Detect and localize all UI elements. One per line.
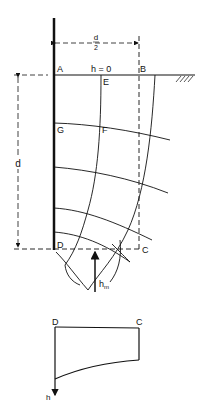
- point-d-label: D: [57, 240, 64, 250]
- point-e-label: E: [103, 77, 109, 87]
- depth-label: d: [15, 158, 21, 169]
- head-axis-label: h: [46, 393, 50, 402]
- lower-d-label: D: [52, 317, 59, 327]
- point-a-label: A: [57, 64, 63, 74]
- head-distribution-diagram: [55, 327, 139, 395]
- point-b-label: B: [140, 64, 146, 74]
- point-g-label: G: [57, 125, 64, 135]
- head-zero-label: h = 0: [91, 64, 111, 74]
- point-c-label: C: [142, 245, 149, 255]
- half-width-label-den: 2: [94, 44, 98, 51]
- equipotential-lines: [54, 123, 170, 290]
- ground-hatch-icon: [176, 76, 193, 82]
- point-f-label: F: [102, 125, 108, 135]
- max-head-label: hm: [99, 279, 109, 290]
- lower-c-label: C: [136, 317, 143, 327]
- flow-lines: [65, 75, 155, 290]
- flow-net-diagram: d 2 d hm A h = 0 B E G F D C: [0, 0, 207, 420]
- half-width-label-num: d: [94, 33, 98, 42]
